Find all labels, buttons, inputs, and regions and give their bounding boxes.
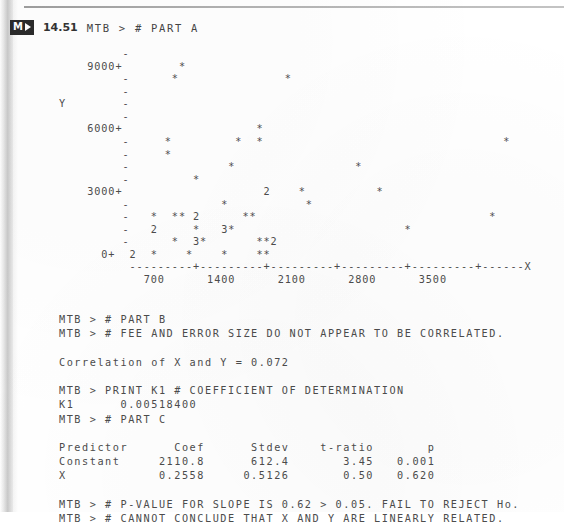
page-binding-shadow <box>0 0 16 512</box>
minitab-regression-output: MTB > # PART B MTB > # FEE AND ERROR SIZ… <box>59 313 520 526</box>
exercise-badge: M <box>10 20 34 35</box>
header-command-line: MTB > # PART A <box>87 22 199 34</box>
minitab-character-plot: - 9000+ * - * * - Y - - 6000+ * - * * * … <box>59 48 532 286</box>
exercise-number: 14.51 <box>43 21 78 34</box>
exercise-header: M 14.51 MTB > # PART A <box>10 20 199 35</box>
page-binding-highlight <box>13 0 18 512</box>
play-arrow-icon <box>25 23 31 31</box>
exercise-badge-letter: M <box>13 22 23 32</box>
page-top-rule <box>24 6 564 8</box>
